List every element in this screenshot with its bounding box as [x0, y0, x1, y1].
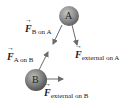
force-b-on-a-label: FB on A [25, 24, 52, 36]
object-a-label: A [65, 11, 72, 21]
force-a-on-b-label: FA on B [7, 52, 34, 64]
force-external-on-b-label: Fexternal on B [44, 88, 88, 100]
object-b-label: B [32, 75, 39, 85]
force-b-on-a-arrow [53, 25, 62, 44]
force-external-on-a-label: Fexternal on A [75, 50, 119, 62]
force-a-on-b-arrow [39, 52, 48, 70]
